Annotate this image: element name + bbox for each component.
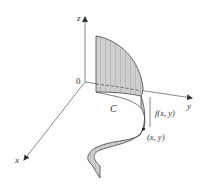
y-axis-label: y bbox=[186, 101, 191, 111]
origin-label: 0 bbox=[76, 76, 81, 86]
point-label: (x, y) bbox=[147, 132, 165, 142]
height-label: f(x, y) bbox=[155, 108, 175, 118]
curve-c-label: C bbox=[110, 103, 117, 114]
x-axis bbox=[24, 82, 85, 160]
x-axis-label: x bbox=[14, 155, 19, 165]
point-marker bbox=[142, 127, 145, 130]
z-axis-label: z bbox=[76, 13, 81, 23]
upper-ribbon bbox=[96, 36, 143, 96]
line-integral-diagram: z 0 y x C f(x, y) (x, y) bbox=[0, 0, 207, 191]
